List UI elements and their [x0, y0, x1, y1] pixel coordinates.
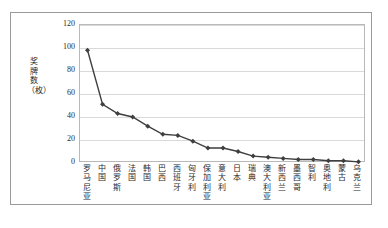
y-tick-label: 120: [63, 20, 75, 28]
x-tick-label: 日本: [232, 164, 243, 183]
x-tick-label: 中国: [96, 164, 107, 183]
y-axis-title: 奖牌数（枚）: [27, 57, 41, 95]
series-line: [88, 50, 359, 162]
data-point-marker: [341, 158, 346, 163]
x-tick-label: 瑞典: [247, 164, 258, 183]
data-point-marker: [311, 157, 316, 162]
x-tick-label: 乌克兰: [352, 164, 363, 192]
x-axis: 罗马尼亚中国俄罗斯法国韩国巴西西班牙匈牙利保加利亚意大利日本瑞典澳大利亚新西兰墨…: [79, 164, 365, 218]
y-tick-label: 60: [67, 89, 75, 97]
y-tick-label: 0: [71, 158, 75, 166]
y-tick-label: 100: [63, 43, 75, 51]
plot-area: [79, 24, 365, 162]
y-tick-label: 40: [67, 112, 75, 120]
x-tick-label: 意大利: [217, 164, 228, 192]
data-point-marker: [326, 158, 331, 163]
data-point-marker: [190, 139, 195, 144]
data-point-marker: [85, 48, 90, 53]
data-point-marker: [221, 146, 226, 151]
x-tick-label: 奥地利: [322, 164, 333, 192]
x-tick-label: 蒙古: [337, 164, 348, 183]
data-point-marker: [281, 156, 286, 161]
y-tick-label: 80: [67, 66, 75, 74]
x-tick-label: 韩国: [141, 164, 152, 183]
y-tick-label: 20: [67, 135, 75, 143]
data-point-marker: [266, 155, 271, 160]
data-point-marker: [236, 149, 241, 154]
x-tick-label: 法国: [126, 164, 137, 183]
data-point-marker: [251, 154, 256, 159]
x-tick-label: 罗马尼亚: [81, 164, 92, 202]
x-tick-label: 保加利亚: [201, 164, 212, 202]
x-tick-label: 匈牙利: [186, 164, 197, 192]
data-point-marker: [175, 133, 180, 138]
x-tick-label: 俄罗斯: [111, 164, 122, 192]
x-tick-label: 澳大利亚: [262, 164, 273, 202]
x-tick-label: 新西兰: [277, 164, 288, 192]
x-tick-label: 西班牙: [171, 164, 182, 192]
data-series: [80, 25, 366, 163]
data-point-marker: [160, 132, 165, 137]
x-tick-label: 墨西哥: [292, 164, 303, 192]
chart-figure: 020406080100120 奖牌数（枚） 罗马尼亚中国俄罗斯法国韩国巴西西班…: [10, 12, 372, 205]
data-point-marker: [205, 146, 210, 151]
data-point-marker: [296, 157, 301, 162]
x-tick-label: 巴西: [156, 164, 167, 183]
x-tick-label: 智利: [307, 164, 318, 183]
